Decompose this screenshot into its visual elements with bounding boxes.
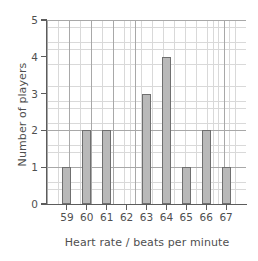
y-axis-line [46, 19, 47, 205]
plot-area [47, 20, 246, 204]
x-tick-65 [186, 205, 187, 210]
bar-67 [222, 167, 231, 204]
x-tick-66 [206, 205, 207, 210]
y-tick-5 [41, 19, 47, 20]
x-tick-62 [126, 205, 127, 210]
bar-59 [62, 167, 71, 204]
y-tick-2 [41, 130, 47, 131]
x-tick-60 [86, 205, 87, 210]
y-tick-label-2: 2 [23, 124, 38, 136]
x-axis-title: Heart rate / beats per minute [47, 236, 247, 249]
y-tick-label-1: 1 [23, 161, 38, 173]
y-tick-3 [41, 93, 47, 94]
bar-61 [102, 130, 111, 204]
bar-63 [142, 94, 151, 204]
x-tick-67 [226, 205, 227, 210]
y-tick-1 [41, 167, 47, 168]
x-tick-label-67: 67 [214, 211, 238, 223]
bar-65 [182, 167, 191, 204]
y-tick-label-4: 4 [23, 51, 38, 63]
y-tick-4 [41, 56, 47, 57]
x-tick-63 [146, 205, 147, 210]
y-tick-label-5: 5 [23, 14, 38, 26]
y-tick-label-3: 3 [23, 88, 38, 100]
bar-64 [162, 57, 171, 204]
y-tick-label-0: 0 [23, 198, 38, 210]
y-tick-0 [41, 203, 47, 204]
x-tick-64 [166, 205, 167, 210]
bar-60 [82, 130, 91, 204]
bar-66 [202, 130, 211, 204]
x-tick-59 [66, 205, 67, 210]
x-tick-61 [106, 205, 107, 210]
bar-chart: Number of players 012345 596061626364656… [0, 0, 258, 261]
